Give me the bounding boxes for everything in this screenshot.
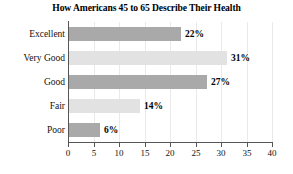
chart-title: How Americans 45 to 65 Describe Their He… — [0, 2, 293, 13]
x-tick-label: 30 — [209, 148, 233, 158]
x-tick — [170, 143, 171, 147]
bar-value-label: 22% — [185, 29, 204, 39]
x-tick-label: 35 — [235, 148, 259, 158]
category-label: Excellent — [29, 29, 65, 39]
bar-chart: How Americans 45 to 65 Describe Their He… — [0, 0, 293, 174]
bar-value-label: 14% — [144, 101, 163, 111]
bar — [69, 51, 227, 65]
x-tick-label: 15 — [133, 148, 157, 158]
category-label: Good — [44, 77, 65, 87]
x-tick — [221, 143, 222, 147]
x-tick-label: 20 — [158, 148, 182, 158]
x-tick-label: 25 — [184, 148, 208, 158]
x-tick-label: 0 — [56, 148, 80, 158]
x-tick — [272, 143, 273, 147]
category-label: Poor — [47, 125, 65, 135]
x-tick — [119, 143, 120, 147]
x-tick — [247, 143, 248, 147]
bar — [69, 27, 181, 41]
x-tick-label: 5 — [82, 148, 106, 158]
x-tick — [94, 143, 95, 147]
gridline — [247, 22, 248, 142]
category-label: Very Good — [24, 53, 65, 63]
x-tick — [196, 143, 197, 147]
bar — [69, 75, 207, 89]
x-tick-label: 10 — [107, 148, 131, 158]
bar — [69, 99, 140, 113]
x-tick-label: 40 — [260, 148, 284, 158]
bar-value-label: 31% — [231, 53, 250, 63]
bar — [69, 123, 100, 137]
x-tick — [68, 143, 69, 147]
bar-value-label: 6% — [104, 125, 118, 135]
category-label: Fair — [50, 101, 65, 111]
bar-value-label: 27% — [211, 77, 230, 87]
gridline — [272, 22, 273, 142]
x-tick — [145, 143, 146, 147]
